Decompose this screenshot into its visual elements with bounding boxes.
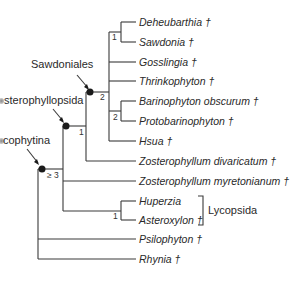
sawdoniales-node-dot (87, 89, 94, 96)
taxon-barinophyton-obscurum: Barinophyton obscurum † (139, 95, 259, 107)
taxon-deheubarthia: Deheubarthia † (139, 16, 211, 28)
clade-label-sawdoniales: Sawdoniales (31, 58, 93, 71)
support-cophytina: ≥ 3 (47, 171, 59, 180)
clade-label-sterophyllopsida: sterophyllopsida (4, 94, 84, 107)
taxon-thrinkophyton: Thrinkophyton † (139, 75, 214, 87)
support-sterophyllopsida: 1 (79, 128, 84, 137)
taxon-huperzia: Huperzia (139, 195, 181, 207)
taxon-psilophyton: Psilophyton † (139, 233, 202, 245)
taxon-sawdonia: Sawdonia † (139, 36, 194, 48)
taxon-gosslingia: Gosslingia † (139, 56, 197, 68)
support-deheubarthia-sawdonia: 1 (112, 33, 117, 42)
support-barino-proto: 2 (113, 113, 118, 122)
taxon-hsua: Hsua † (139, 135, 172, 147)
support-lycopsida: 1 (113, 212, 118, 221)
sterophyllopsida-node-dot (63, 123, 70, 130)
taxon-rhynia: Rhynia † (139, 253, 180, 265)
support-sawdoniales: 2 (100, 93, 105, 102)
cophytina-node-dot (39, 166, 46, 173)
taxon-protobarinophyton: Protobarinophyton † (139, 115, 234, 127)
taxon-zosterophyllum-divaricatum: Zosterophyllum divaricatum † (139, 155, 276, 167)
taxon-asteroxylon: Asteroxylon † (139, 214, 203, 226)
taxon-zosterophyllum-myretonianum: Zosterophyllum myretonianum † (139, 175, 289, 187)
clade-label-lycopsida: Lycopsida (208, 204, 257, 217)
cophytina-arrowhead (34, 159, 39, 165)
clade-label-cophytina: cophytina (3, 134, 50, 147)
